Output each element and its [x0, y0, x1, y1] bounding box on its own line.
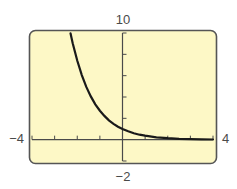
graphing-calculator-chart: 10 −2 −4 4	[0, 0, 237, 189]
ymax-label: 10	[116, 12, 130, 27]
xmin-label: −4	[9, 131, 24, 146]
xmax-label: 4	[222, 131, 229, 146]
ymin-label: −2	[116, 169, 131, 184]
